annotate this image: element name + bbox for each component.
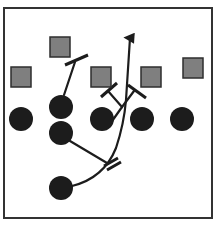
offensive-player-o1: [9, 107, 33, 131]
defender-d1: [50, 37, 70, 57]
play-diagram: [0, 0, 220, 225]
offensive-player-o4: [90, 107, 114, 131]
offensive-player-o2: [49, 95, 73, 119]
defender-d3: [91, 67, 111, 87]
defender-d5: [183, 58, 203, 78]
defender-d2: [11, 67, 31, 87]
block-o2-line: [64, 62, 75, 95]
defender-squares: [11, 37, 203, 87]
offensive-player-o3: [49, 121, 73, 145]
offensive-player-o7: [49, 176, 73, 200]
block-mark-icon: [104, 158, 121, 170]
block-o4-right-line: [122, 91, 134, 107]
offensive-player-o5: [130, 107, 154, 131]
defender-d4: [141, 67, 161, 87]
block-o3-line: [70, 141, 107, 163]
offense-circles: [9, 95, 194, 200]
offensive-player-o6: [170, 107, 194, 131]
